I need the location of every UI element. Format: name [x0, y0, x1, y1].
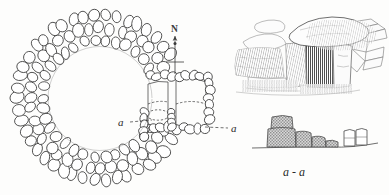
archaeological-figure: a a N	[0, 0, 389, 195]
section-block-step-block-1	[296, 131, 312, 147]
section-label-right: a	[231, 122, 237, 134]
ring-stone	[84, 23, 93, 36]
ring-stone	[38, 81, 50, 90]
north-label: N	[171, 24, 178, 34]
section-label: a - a	[283, 165, 305, 179]
section-block-step-block-3	[326, 140, 338, 147]
ring-stone	[12, 104, 25, 116]
section-label-left: a	[118, 116, 124, 128]
section-block-step-block-2	[312, 136, 326, 147]
left-terrace-shading	[235, 48, 284, 78]
ring-stone	[72, 23, 84, 37]
section-block-main-orthostat	[267, 128, 296, 148]
